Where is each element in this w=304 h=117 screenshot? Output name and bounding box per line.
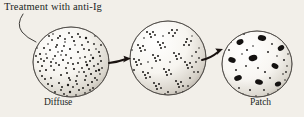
annotation-label: Treatment with anti-Ig [4, 1, 102, 12]
cell-clustered [130, 21, 206, 95]
label-diffuse: Diffuse [44, 97, 72, 107]
cell-patch [222, 29, 292, 97]
annotation-leader-line [19, 14, 36, 42]
label-patch: Patch [250, 97, 271, 107]
cell-diffuse [33, 27, 109, 97]
arrow-1 [109, 56, 131, 63]
